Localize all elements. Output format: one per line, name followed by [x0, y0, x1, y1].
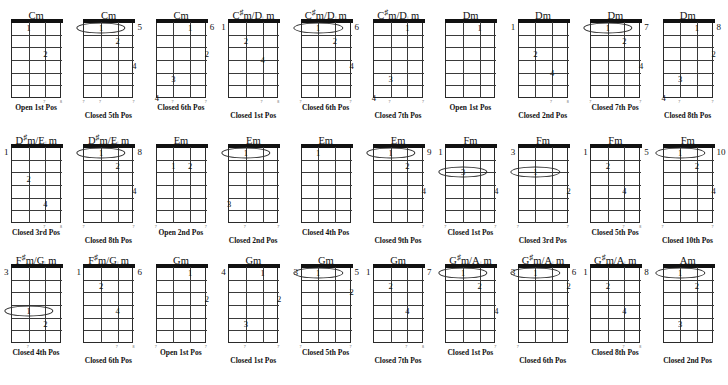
fret-line	[302, 85, 352, 86]
fret-line	[374, 73, 424, 74]
chord-diagram: Cm1245777Closed 5th Pos	[72, 10, 144, 123]
fretboard-grid: 124	[83, 147, 133, 223]
string-line	[45, 22, 46, 98]
fret-line	[12, 160, 62, 161]
finger-number: 2	[188, 162, 192, 171]
fret-start-number: 1	[438, 148, 443, 157]
finger-number: 1	[316, 149, 320, 158]
finger-number: 1	[27, 307, 31, 316]
string-tuning-label: 8	[277, 99, 279, 104]
string-tuning-label: 7	[116, 344, 118, 349]
fret-line	[157, 47, 207, 48]
string-tuning-label: 7	[82, 224, 84, 229]
fret-line	[374, 318, 424, 319]
fret-start-number: 4	[221, 268, 226, 277]
string-tuning-labels: 78	[518, 99, 568, 107]
string-tuning-label: 7	[678, 99, 680, 104]
fret-line	[664, 305, 714, 306]
finger-number: 2	[277, 294, 281, 303]
string-line	[335, 267, 336, 343]
fret-line	[12, 330, 62, 331]
fret-line	[519, 318, 569, 319]
string-tuning-labels: 77	[373, 99, 423, 107]
fret-line	[519, 280, 569, 281]
position-caption: Closed 8th Pos	[68, 236, 148, 245]
fret-line	[157, 292, 207, 293]
chord-diagram: Am123Closed 2nd Pos	[652, 255, 724, 368]
fret-line	[302, 292, 352, 293]
fret-line	[374, 60, 424, 61]
nut-bar	[445, 144, 497, 148]
fret-line	[229, 318, 279, 319]
nut-bar	[83, 264, 135, 268]
string-line	[480, 267, 481, 343]
fretboard-grid: 123	[228, 267, 278, 343]
string-line	[263, 267, 264, 343]
position-caption: Closed 3rd Pos	[503, 236, 583, 245]
position-caption: Closed 1st Pos	[213, 111, 293, 120]
string-line	[101, 267, 102, 343]
finger-number: 3	[678, 75, 682, 84]
fret-line	[374, 305, 424, 306]
fret-line	[84, 160, 134, 161]
fret-line	[302, 280, 352, 281]
fret-line	[591, 305, 641, 306]
fretboard-diagram: 125377	[301, 267, 351, 343]
fretboard-grid: 124	[301, 22, 351, 98]
finger-number: 1	[316, 24, 320, 33]
string-tuning-labels: 77	[663, 99, 713, 107]
fret-line	[157, 160, 207, 161]
finger-number: 2	[622, 37, 626, 46]
fret-line	[591, 280, 641, 281]
nut-bar	[663, 264, 715, 268]
nut-bar	[590, 144, 642, 148]
finger-number: 2	[349, 288, 353, 297]
fret-line	[302, 318, 352, 319]
fret-position-number: 10	[717, 148, 726, 157]
fret-line	[157, 73, 207, 74]
nut-bar	[590, 264, 642, 268]
fret-line	[84, 210, 134, 211]
position-caption: Closed 2nd Pos	[213, 236, 293, 245]
nut-bar	[663, 144, 715, 148]
string-line	[624, 267, 625, 343]
chord-diagram: Gm123477Closed 1st Pos	[217, 255, 289, 368]
fret-line	[12, 85, 62, 86]
position-caption: Closed 10th Pos	[648, 236, 728, 245]
fret-line	[302, 210, 352, 211]
fret-line	[446, 305, 496, 306]
fret-line	[374, 210, 424, 211]
finger-number: 4	[622, 307, 626, 316]
string-line	[463, 147, 464, 223]
fretboard-grid: 12	[156, 147, 206, 223]
fretboard-grid: 124	[83, 22, 133, 98]
fret-line	[84, 330, 134, 331]
finger-number: 1	[478, 24, 482, 33]
fret-line	[12, 185, 62, 186]
finger-number: 4	[422, 187, 426, 196]
fret-line	[519, 210, 569, 211]
fret-position-number: 8	[644, 268, 649, 277]
string-line	[552, 267, 553, 343]
fret-line	[519, 292, 569, 293]
string-tuning-labels: 78	[83, 344, 133, 352]
fretboard-grid: 12	[11, 22, 61, 98]
chord-diagram: Dm124777Closed 7th Pos	[579, 10, 651, 123]
fret-line	[591, 73, 641, 74]
finger-number: 4	[405, 307, 409, 316]
fret-line	[84, 60, 134, 61]
chord-diagram: G♯m/A♭m248178Closed 8th Pos	[579, 255, 651, 368]
finger-number: 2	[116, 162, 120, 171]
fret-line	[664, 210, 714, 211]
fret-line	[229, 160, 279, 161]
fretboard-grid: 124	[663, 147, 713, 223]
fret-line	[12, 73, 62, 74]
finger-number: 4	[116, 307, 120, 316]
string-tuning-label: 7	[422, 224, 424, 229]
position-caption: Closed 6th Pos	[286, 103, 366, 112]
fret-line	[446, 292, 496, 293]
finger-number: 2	[43, 320, 47, 329]
fret-line	[157, 172, 207, 173]
position-caption: Closed 2nd Pos	[503, 111, 583, 120]
fret-line	[519, 60, 569, 61]
